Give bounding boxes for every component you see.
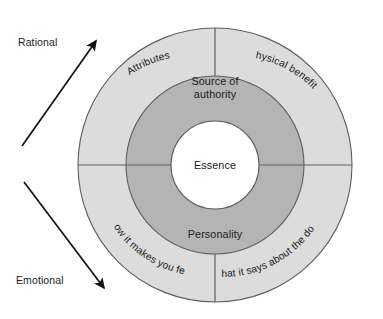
inner-label-source-of-authority-line1: Source of [191,75,239,87]
brand-wheel-diagram: Attributes Physical benefits How it make… [0,0,383,319]
inner-label-personality: Personality [188,228,243,240]
center-label-group: Essence [194,159,236,171]
axis-label-rational: Rational [18,36,57,48]
wheel-svg: Attributes Physical benefits How it make… [0,0,383,319]
inner-label-source-of-authority-line2: authority [194,88,237,100]
axis-label-emotional: Emotional [16,274,64,286]
center-label-essence: Essence [194,159,236,171]
axis-labels-group: Rational Emotional [16,36,64,286]
